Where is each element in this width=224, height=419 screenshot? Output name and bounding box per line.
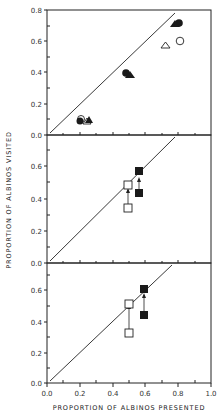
filled-square-marker <box>135 189 143 197</box>
y-axis-title: PROPORTION OF ALBINOS VISITED <box>5 131 13 269</box>
filled-circle-marker <box>77 118 84 125</box>
middle-markers <box>124 167 143 212</box>
y-tick-label: 0.4 <box>31 196 43 204</box>
x-tick-label: 0.4 <box>107 390 119 398</box>
arrow-head-icon <box>137 177 141 182</box>
x-tick-label: 1.0 <box>205 390 216 398</box>
y-tick-label: 0.6 <box>31 38 43 46</box>
open-square-marker <box>125 329 133 337</box>
y-tick-label: 0.2 <box>31 350 42 358</box>
x-tick-label: 0.6 <box>139 390 151 398</box>
x-tick-label: 0.8 <box>172 390 183 398</box>
y-tick-label: 0.6 <box>31 287 43 295</box>
x-tick-label: 0.0 <box>41 390 52 398</box>
y-tick-label: 0.2 <box>31 101 42 109</box>
y-tick-label: 0.8 <box>31 7 42 15</box>
y-tick-label: 0.0 <box>31 132 42 140</box>
y-tick-label: 0.4 <box>31 319 43 327</box>
open-square-marker <box>124 181 132 189</box>
y-tick-label: 0.4 <box>31 69 43 77</box>
y-tick-label: 0.2 <box>31 228 42 236</box>
filled-square-marker <box>135 167 143 175</box>
panel-middle <box>47 135 211 263</box>
filled-square-marker <box>140 285 148 293</box>
arrow-head-icon <box>142 293 146 298</box>
identity-line-top <box>50 13 175 133</box>
y-tick-label: 0.0 <box>31 380 42 388</box>
y-tick-label: 0.6 <box>31 163 43 171</box>
y-tick-label: 0.0 <box>31 260 42 268</box>
open-square-marker <box>125 300 133 308</box>
identity-line-middle <box>50 137 175 261</box>
x-axis-title: PROPORTION OF ALBINOS PRESENTED <box>53 404 206 412</box>
filled-square-marker <box>140 311 148 319</box>
figure: 0.8 0.6 0.4 0.2 0.0 0.0 0.2 0.4 0.6 0.0 … <box>0 0 224 419</box>
bottom-markers <box>125 285 148 337</box>
open-triangle-marker <box>161 42 170 48</box>
open-square-marker <box>124 204 132 212</box>
x-tick-label: 0.2 <box>74 390 85 398</box>
open-circle-marker <box>176 37 184 45</box>
x-ticks <box>47 132 211 387</box>
top-markers <box>77 19 184 124</box>
identity-line-bottom <box>50 265 172 381</box>
